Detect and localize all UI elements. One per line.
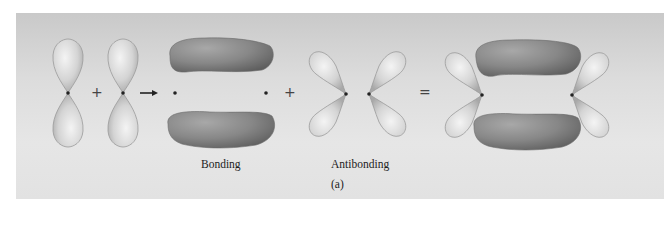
bonding-label: Bonding [201, 158, 241, 170]
nucleus-dot [480, 93, 484, 97]
panel-label: (a) [331, 178, 344, 190]
nucleus-dot [570, 93, 574, 97]
antibonding-label: Antibonding [331, 158, 389, 170]
p-orbital-1 [53, 39, 83, 147]
nucleus-dot [264, 91, 268, 95]
nucleus-dot [367, 92, 371, 96]
plus-operator-1: + [91, 84, 103, 100]
bonding-orbital [168, 38, 275, 148]
nucleus-dot [173, 91, 177, 95]
nucleus-dot [66, 91, 70, 95]
nucleus-dot [121, 91, 125, 95]
arrow-icon [140, 90, 158, 96]
p-orbital-2 [108, 39, 138, 147]
plus-operator-2: + [284, 84, 296, 100]
antibonding-orbitals [309, 52, 406, 137]
combined-orbital [445, 40, 609, 150]
nucleus-dot [344, 92, 348, 96]
equals-operator: = [419, 84, 431, 100]
